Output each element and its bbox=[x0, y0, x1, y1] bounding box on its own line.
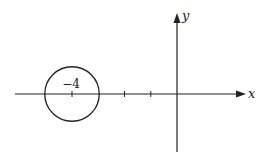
y-axis-label: y bbox=[181, 8, 190, 23]
x-axis-label: x bbox=[248, 86, 256, 101]
y-axis-arrowhead bbox=[174, 13, 181, 23]
x-axis-arrowhead bbox=[236, 91, 246, 98]
circle-center-label: −4 bbox=[62, 77, 80, 91]
coordinate-diagram: x y −4 bbox=[0, 0, 264, 160]
